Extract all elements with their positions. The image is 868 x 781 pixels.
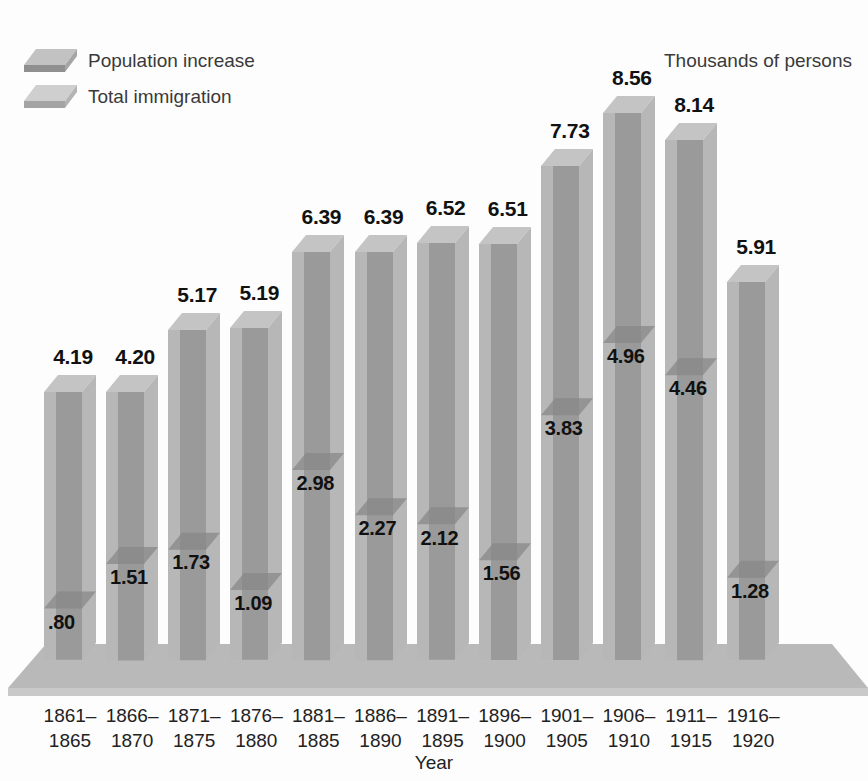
- legend-label-total-immigration: Total immigration: [88, 86, 232, 108]
- bar-total-label-1866-1870: 4.20: [104, 345, 166, 369]
- bar-total-label-1876-1880: 5.19: [228, 281, 290, 305]
- x-axis-label-line2: 1920: [717, 728, 789, 753]
- bar-total-label-1916-1920: 5.91: [725, 235, 787, 259]
- bar-1891-1895[interactable]: [417, 226, 473, 664]
- bar-total-label-1906-1910: 8.56: [601, 66, 663, 90]
- legend-label-population-increase: Population increase: [88, 50, 255, 72]
- bar-immigration-label-1891-1895: 2.12: [421, 527, 459, 550]
- bar-immigration-label-1881-1885: 2.98: [296, 472, 334, 495]
- x-axis-title: Year: [0, 752, 868, 774]
- bar-immigration-label-1861-1865: .80: [48, 611, 75, 634]
- bar-1881-1885[interactable]: [292, 235, 348, 664]
- units-note: Thousands of persons: [664, 50, 852, 72]
- bar-1871-1875[interactable]: [168, 313, 224, 664]
- chart-canvas: 4.19.804.201.515.171.735.191.096.392.986…: [0, 0, 868, 781]
- bar-1906-1910[interactable]: [603, 96, 659, 664]
- bar-immigration-label-1906-1910: 4.96: [607, 345, 645, 368]
- bar-total-label-1911-1915: 8.14: [663, 93, 725, 117]
- bar-immigration-label-1896-1900: 1.56: [483, 562, 521, 585]
- bar-immigration-label-1866-1870: 1.51: [110, 566, 148, 589]
- bar-total-label-1881-1885: 6.39: [290, 205, 352, 229]
- bar-total-label-1861-1865: 4.19: [42, 345, 104, 369]
- bar-1886-1890[interactable]: [355, 235, 411, 664]
- bar-1896-1900[interactable]: [479, 227, 535, 664]
- bar-immigration-label-1886-1890: 2.27: [359, 517, 397, 540]
- bar-1901-1905[interactable]: [541, 149, 597, 664]
- bar-total-label-1891-1895: 6.52: [415, 196, 477, 220]
- x-axis-label-1916-1920: 1916–1920: [717, 703, 789, 753]
- bar-1866-1870[interactable]: [106, 375, 162, 664]
- bar-immigration-label-1901-1905: 3.83: [545, 417, 583, 440]
- bar-total-label-1871-1875: 5.17: [166, 283, 228, 307]
- bar-total-label-1886-1890: 6.39: [353, 205, 415, 229]
- bar-1916-1920[interactable]: [727, 265, 783, 664]
- bar-immigration-label-1911-1915: 4.46: [669, 377, 707, 400]
- bar-immigration-label-1871-1875: 1.73: [172, 551, 210, 574]
- x-axis-label-line1: 1916–: [717, 703, 789, 728]
- bar-immigration-label-1916-1920: 1.28: [731, 580, 769, 603]
- legend-swatch-population-increase: [24, 48, 78, 74]
- bar-total-label-1901-1905: 7.73: [539, 119, 601, 143]
- bar-immigration-label-1876-1880: 1.09: [234, 592, 272, 615]
- legend-swatch-total-immigration: [24, 84, 78, 110]
- bar-total-label-1896-1900: 6.51: [477, 197, 539, 221]
